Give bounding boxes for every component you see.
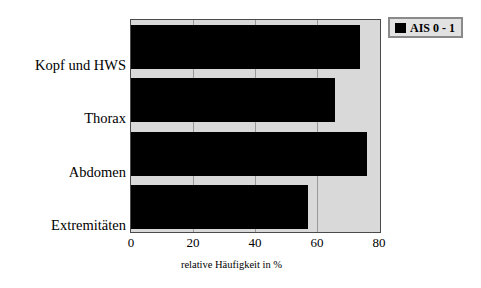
plot-area	[130, 19, 381, 233]
y-axis-label-2: Abdomen	[0, 165, 126, 180]
x-tick-label-1: 20	[187, 236, 200, 250]
bar-kopf-und-hws	[131, 25, 360, 69]
legend-swatch-icon	[395, 23, 406, 33]
bar-thorax	[131, 78, 335, 122]
y-axis-label-3: Extremitäten	[0, 218, 126, 233]
x-tick-label-0: 0	[128, 236, 135, 250]
x-axis-title-text: relative Häufigkeit in %	[181, 259, 282, 271]
bar-abdomen	[131, 132, 367, 176]
x-axis-title: relative Häufigkeit in %	[0, 259, 481, 271]
bar-extremitaeten	[131, 185, 308, 229]
x-axis-tick-labels: 0 20 40 60 80	[0, 236, 481, 252]
x-tick-label-3: 60	[311, 236, 324, 250]
legend: AIS 0 - 1	[388, 17, 463, 38]
x-tick-label-2: 40	[249, 236, 262, 250]
x-tick-label-4: 80	[373, 236, 386, 250]
y-axis-label-0: Kopf und HWS	[0, 58, 126, 73]
plot-inner	[131, 20, 380, 232]
legend-entry-label: AIS 0 - 1	[410, 22, 455, 34]
y-axis-category-labels: Kopf und HWS Thorax Abdomen Extremitäten	[0, 19, 126, 233]
y-axis-label-1: Thorax	[0, 111, 126, 126]
